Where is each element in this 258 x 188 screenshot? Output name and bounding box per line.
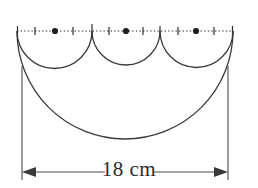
center-dot-2 [123, 28, 129, 34]
small-semicircle-3 [160, 31, 233, 68]
geometry-figure: 18 cm [0, 0, 258, 188]
dimension-label: 18 cm [0, 157, 258, 181]
small-semicircle-2 [92, 31, 160, 65]
small-semicircle-1 [17, 31, 92, 69]
center-dot-1 [52, 28, 58, 34]
center-dot-3 [193, 28, 199, 34]
large-semicircle [17, 31, 233, 139]
